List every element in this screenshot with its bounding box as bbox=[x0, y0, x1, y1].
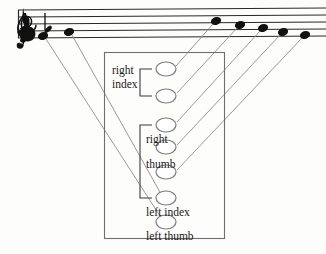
label-right-index-line2: index bbox=[112, 78, 138, 90]
connector-line bbox=[177, 28, 237, 93]
fingering-circle bbox=[156, 62, 176, 76]
connector-line bbox=[46, 39, 160, 216]
label-right-thumb-line2: thumb bbox=[146, 158, 175, 170]
fingering-circle bbox=[156, 191, 176, 205]
fingering-diagram: right index right thumb left index left … bbox=[0, 0, 326, 254]
note-head bbox=[63, 27, 75, 38]
connector-line bbox=[177, 38, 302, 170]
label-right-index-line1: right bbox=[112, 64, 134, 76]
connector-line bbox=[177, 31, 260, 122]
note-head bbox=[234, 20, 246, 31]
fingering-circles bbox=[156, 62, 176, 229]
note-head bbox=[210, 16, 222, 27]
label-left-index: left index bbox=[146, 206, 190, 218]
bracket-right-index bbox=[140, 69, 152, 96]
note-head bbox=[257, 23, 269, 34]
fingering-circle bbox=[156, 89, 176, 103]
connector-line bbox=[72, 35, 161, 194]
treble-clef-icon bbox=[17, 8, 36, 48]
note-head bbox=[299, 30, 311, 41]
flat-sign-icon bbox=[45, 13, 52, 33]
fingering-circle bbox=[156, 118, 176, 132]
label-right-thumb-line1: right bbox=[146, 133, 168, 145]
connector-line bbox=[177, 35, 280, 145]
label-left-thumb: left thumb bbox=[146, 230, 194, 242]
